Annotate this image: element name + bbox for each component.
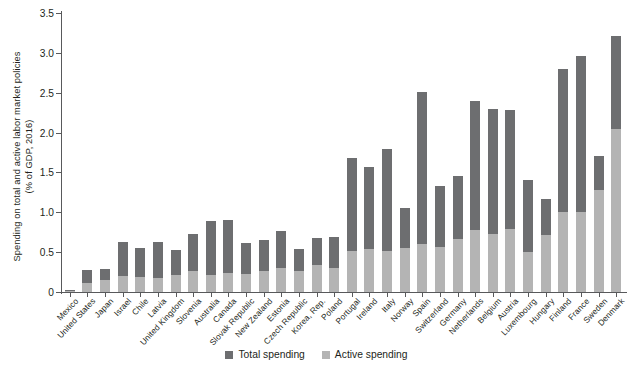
bar-group — [541, 13, 551, 292]
bar-active-spending — [488, 234, 498, 292]
bar-group — [505, 13, 515, 292]
bar-active-spending — [470, 230, 480, 292]
bar-active-spending — [347, 251, 357, 292]
bar-active-spending — [329, 268, 339, 292]
y-tick-label: 0.5 — [40, 247, 54, 258]
bar-group — [364, 13, 374, 292]
y-tick — [56, 292, 61, 293]
bar-group — [594, 13, 604, 292]
bar-active-spending — [135, 277, 145, 292]
y-tick-label: 0 — [48, 287, 54, 298]
bar-group — [417, 13, 427, 292]
bar-active-spending — [611, 129, 621, 292]
bar-group — [453, 13, 463, 292]
bar-series-group — [61, 13, 625, 292]
legend-item-total: Total spending — [225, 349, 304, 360]
x-tick — [599, 292, 600, 297]
chart-legend: Total spending Active spending — [0, 349, 633, 360]
bar-group — [206, 13, 216, 292]
bar-group — [435, 13, 445, 292]
bar-active-spending — [558, 212, 568, 292]
bar-active-spending — [276, 268, 286, 292]
bar-group — [188, 13, 198, 292]
bar-active-spending — [241, 274, 251, 292]
x-tick — [176, 292, 177, 297]
bar-group — [118, 13, 128, 292]
bar-group — [294, 13, 304, 292]
bar-active-spending — [118, 276, 128, 292]
bar-group — [100, 13, 110, 292]
bar-group — [153, 13, 163, 292]
bar-group — [65, 13, 75, 292]
bar-group — [259, 13, 269, 292]
bar-active-spending — [188, 271, 198, 292]
bar-active-spending — [82, 283, 92, 292]
x-tick — [352, 292, 353, 297]
bar-group — [223, 13, 233, 292]
plot-area: 00.51.01.52.02.53.03.5 — [61, 13, 625, 292]
y-tick-label: 2.0 — [40, 127, 54, 138]
bar-active-spending — [364, 249, 374, 292]
bar-active-spending — [153, 278, 163, 292]
bar-active-spending — [100, 280, 110, 292]
bar-active-spending — [259, 271, 269, 292]
y-axis-title: Spending on total and active labor marke… — [12, 12, 35, 302]
bar-group — [347, 13, 357, 292]
legend-item-active: Active spending — [322, 349, 408, 360]
x-tick — [581, 292, 582, 297]
bar-active-spending — [505, 229, 515, 292]
x-tick — [123, 292, 124, 297]
bar-group — [611, 13, 621, 292]
bar-active-spending — [382, 251, 392, 292]
x-tick — [317, 292, 318, 297]
bar-active-spending — [206, 275, 216, 292]
bar-group — [382, 13, 392, 292]
total-swatch-icon — [225, 351, 233, 359]
x-tick — [264, 292, 265, 297]
bar-active-spending — [523, 252, 533, 292]
x-tick — [458, 292, 459, 297]
bar-group — [488, 13, 498, 292]
bar-active-spending — [400, 248, 410, 292]
bar-group — [312, 13, 322, 292]
bar-group — [82, 13, 92, 292]
bar-active-spending — [294, 271, 304, 292]
bar-active-spending — [171, 275, 181, 292]
bar-group — [576, 13, 586, 292]
bar-active-spending — [541, 235, 551, 292]
x-tick — [493, 292, 494, 297]
bar-active-spending — [312, 265, 322, 292]
bar-active-spending — [417, 244, 427, 292]
bar-group — [135, 13, 145, 292]
x-axis-line — [61, 292, 627, 293]
x-tick — [440, 292, 441, 297]
bar-group — [171, 13, 181, 292]
bar-group — [400, 13, 410, 292]
y-tick-label: 3.0 — [40, 47, 54, 58]
x-tick — [70, 292, 71, 297]
x-tick — [405, 292, 406, 297]
bar-active-spending — [594, 190, 604, 292]
bar-active-spending — [453, 239, 463, 292]
bar-group — [558, 13, 568, 292]
y-tick-label: 1.5 — [40, 167, 54, 178]
y-tick-label: 1.0 — [40, 207, 54, 218]
bar-active-spending — [223, 273, 233, 292]
x-tick-label: Japan — [92, 296, 115, 320]
x-tick — [211, 292, 212, 297]
bar-active-spending — [576, 212, 586, 292]
legend-label-active: Active spending — [335, 349, 408, 360]
legend-label-total: Total spending — [238, 349, 304, 360]
bar-group — [470, 13, 480, 292]
x-tick-label: Israel — [111, 296, 133, 318]
bar-group — [276, 13, 286, 292]
bar-group — [523, 13, 533, 292]
chart-figure: Spending on total and active labor marke… — [0, 0, 633, 372]
bar-group — [329, 13, 339, 292]
bar-group — [241, 13, 251, 292]
x-tick — [299, 292, 300, 297]
x-tick — [158, 292, 159, 297]
y-tick-label: 3.5 — [40, 8, 54, 19]
x-tick — [546, 292, 547, 297]
y-tick-label: 2.5 — [40, 87, 54, 98]
